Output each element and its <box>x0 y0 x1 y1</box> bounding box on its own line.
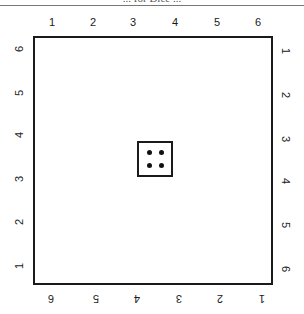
left-label: 2 <box>12 215 26 229</box>
bottom-label: 2 <box>213 292 227 306</box>
left-label: 4 <box>12 128 26 142</box>
right-label: 2 <box>279 88 293 102</box>
top-label: 5 <box>210 15 224 29</box>
left-label: 1 <box>12 259 26 273</box>
die-pip <box>147 163 152 168</box>
die-pip <box>159 163 164 168</box>
right-label: 4 <box>279 174 293 188</box>
top-label: 4 <box>168 15 182 29</box>
left-label: 6 <box>12 42 26 56</box>
cropped-header-title: ... for Dice ... <box>0 0 304 4</box>
top-label: 2 <box>86 15 100 29</box>
die-four-face <box>137 141 173 177</box>
top-label: 1 <box>45 15 59 29</box>
right-label: 3 <box>279 132 293 146</box>
bottom-label: 1 <box>255 292 269 306</box>
die-pip <box>159 150 164 155</box>
die-pip <box>147 150 152 155</box>
bottom-label: 6 <box>44 292 58 306</box>
top-label: 3 <box>126 15 140 29</box>
left-label: 3 <box>12 172 26 186</box>
bottom-label: 3 <box>172 292 186 306</box>
bottom-label: 4 <box>130 292 144 306</box>
top-label: 6 <box>251 15 265 29</box>
bottom-label: 5 <box>89 292 103 306</box>
right-label: 5 <box>279 218 293 232</box>
right-label: 6 <box>279 262 293 276</box>
right-label: 1 <box>279 44 293 58</box>
left-label: 5 <box>12 86 26 100</box>
header-rule <box>0 5 304 6</box>
